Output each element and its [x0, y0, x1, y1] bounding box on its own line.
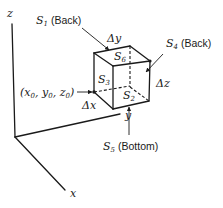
- s4-leader-arrow: [146, 54, 163, 72]
- s5-label: S5(Bottom): [103, 140, 158, 154]
- coordinate-axes: z x: [6, 7, 120, 200]
- s4-vertex: [148, 59, 151, 62]
- origin-label: (x0, y0, z0): [20, 86, 74, 100]
- origin-vertex: [92, 90, 96, 94]
- dx-label: Δx: [81, 99, 97, 112]
- y-axis-label: y: [124, 109, 132, 122]
- cube-edge-front-right: [149, 61, 150, 101]
- cube-edge-top-right: [130, 46, 150, 61]
- y-axis: [15, 114, 120, 137]
- s4-label: S4(Back): [166, 37, 211, 51]
- dy-label: Δy: [106, 32, 122, 45]
- z-axis: [12, 24, 15, 137]
- cube-edge-top-back: [94, 46, 130, 53]
- cube-edge-top-left: [94, 53, 113, 66]
- x-axis: [15, 137, 65, 190]
- s1-leader-arrow: [82, 28, 109, 50]
- z-axis-label: z: [6, 7, 13, 20]
- s1-label: S1(Back): [36, 14, 81, 28]
- x-axis-label: x: [70, 187, 77, 200]
- dz-label: Δz: [155, 77, 170, 90]
- s2-label: S2: [123, 89, 136, 103]
- cube-edge-bottom-left: [94, 92, 113, 109]
- s3-label: S3: [98, 73, 111, 87]
- s6-label: S6: [114, 50, 127, 64]
- labels: S1(Back) Δy S6 S4(Back) S3 S2 Δz Δx y (x…: [20, 14, 211, 154]
- control-volume-diagram: z x S1(Back) Δy: [0, 0, 223, 208]
